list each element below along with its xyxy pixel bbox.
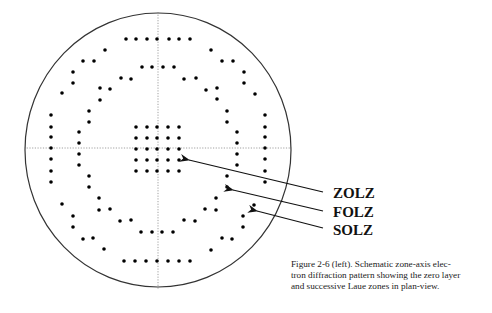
- folz-spot: [182, 218, 186, 222]
- folz-spot: [87, 185, 91, 189]
- zolz-spot: [177, 158, 181, 162]
- solz-spot: [71, 214, 75, 218]
- solz-spot: [71, 225, 75, 229]
- zolz-spot: [134, 169, 138, 173]
- folz-spot: [235, 141, 239, 145]
- solz-spot: [231, 59, 235, 63]
- zolz-spot: [145, 147, 149, 151]
- zolz-spot: [177, 147, 181, 151]
- figure-caption: Figure 2-6 (left). Schematic zone-axis e…: [291, 259, 491, 292]
- folz-spot: [193, 219, 197, 223]
- solz-spot: [155, 259, 159, 263]
- solz-spot: [263, 157, 267, 161]
- arrow-solz: [257, 211, 323, 228]
- zolz-spot: [145, 125, 149, 129]
- solz-spot: [103, 48, 107, 52]
- solz-spot: [81, 237, 85, 241]
- zolz-spot: [177, 125, 181, 129]
- solz-spot: [71, 70, 75, 74]
- folz-spot: [215, 86, 219, 90]
- solz-spot: [252, 203, 256, 207]
- folz-spot: [129, 218, 133, 222]
- solz-spot: [167, 37, 171, 41]
- folz-spot: [129, 77, 133, 81]
- solz-spot: [122, 259, 126, 263]
- folz-spot: [140, 65, 144, 69]
- folz-spot: [77, 141, 81, 145]
- solz-spot: [188, 259, 192, 263]
- folz-spot: [194, 76, 198, 80]
- zolz-spot: [155, 147, 159, 151]
- solz-spot: [177, 259, 181, 263]
- folz-spot: [87, 120, 91, 124]
- solz-spot: [145, 37, 149, 41]
- folz-spot: [139, 230, 143, 234]
- zolz-spot: [145, 136, 149, 140]
- folz-spot: [225, 120, 229, 124]
- solz-spot: [134, 37, 138, 41]
- solz-spot: [71, 81, 75, 85]
- solz-spot: [60, 91, 64, 95]
- folz-spot: [77, 130, 81, 134]
- folz-spot: [172, 65, 176, 69]
- folz-spot: [235, 130, 239, 134]
- zolz-spot: [166, 147, 170, 151]
- label-folz: FOLZ: [333, 205, 374, 220]
- zolz-spot: [155, 136, 159, 140]
- folz-spot: [77, 152, 81, 156]
- caption-line-2: tron diffraction pattern showing the zer…: [291, 270, 491, 281]
- folz-spot: [108, 87, 112, 91]
- solz-spot: [209, 48, 213, 52]
- folz-spot: [98, 86, 102, 90]
- solz-spot: [242, 81, 246, 85]
- solz-spot: [263, 146, 267, 150]
- zolz-spot: [134, 136, 138, 140]
- folz-spot: [161, 65, 165, 69]
- solz-spot: [263, 169, 267, 173]
- zolz-spot: [177, 136, 181, 140]
- solz-spot: [253, 92, 257, 96]
- solz-spot: [188, 37, 192, 41]
- solz-spot: [144, 259, 148, 263]
- zolz-spot: [166, 125, 170, 129]
- solz-spot: [209, 248, 213, 252]
- folz-spot: [225, 174, 229, 178]
- solz-spot: [81, 59, 85, 63]
- folz-spot: [235, 152, 239, 156]
- solz-spot: [49, 113, 53, 117]
- folz-spot: [225, 109, 229, 113]
- solz-spot: [133, 259, 137, 263]
- folz-spot: [77, 163, 81, 167]
- solz-spot: [49, 180, 53, 184]
- folz-spot: [182, 77, 186, 81]
- solz-spot: [124, 37, 128, 41]
- zolz-spot: [155, 158, 159, 162]
- folz-spot: [203, 207, 207, 211]
- folz-spot: [171, 230, 175, 234]
- solz-spot: [49, 169, 53, 173]
- zolz-spot: [155, 169, 159, 173]
- zolz-spot: [134, 158, 138, 162]
- folz-spot: [108, 207, 112, 211]
- solz-spot: [241, 214, 245, 218]
- label-zolz: ZOLZ: [333, 186, 375, 201]
- folz-spot: [214, 208, 218, 212]
- zolz-spot: [134, 125, 138, 129]
- folz-spot: [87, 109, 91, 113]
- folz-spot: [215, 97, 219, 101]
- solz-spot: [49, 146, 53, 150]
- solz-spot: [60, 202, 64, 206]
- solz-spot: [263, 113, 267, 117]
- folz-spot: [150, 65, 154, 69]
- solz-spot: [102, 247, 106, 251]
- solz-spot: [263, 135, 267, 139]
- solz-spot: [220, 59, 224, 63]
- folz-spot: [87, 174, 91, 178]
- zolz-spot: [177, 169, 181, 173]
- zolz-spot: [166, 158, 170, 162]
- label-solz: SOLZ: [333, 223, 373, 238]
- caption-line-3: and successive Laue zones in plan-view.: [291, 281, 491, 292]
- folz-spot: [214, 196, 218, 200]
- solz-spot: [91, 236, 95, 240]
- folz-spot: [97, 208, 101, 212]
